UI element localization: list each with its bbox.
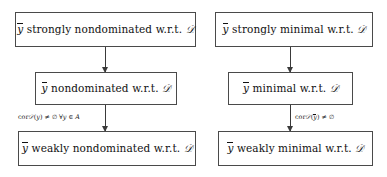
- cal-d-symbol: 𝒟: [186, 23, 194, 35]
- arrow-label-cor-d-ybar-nonempty: cor𝒟(y) ≠ ∅: [295, 114, 334, 120]
- box-strongly-nondominated: y strongly nondominated w.r.t. 𝒟: [15, 12, 196, 47]
- box-strongly-nondominated-label: y strongly nondominated w.r.t. 𝒟: [17, 24, 194, 36]
- arrow-strongly-to-minimal: [290, 47, 291, 72]
- box-strongly-minimal-label: y strongly minimal w.r.t. 𝒟: [223, 24, 366, 36]
- box-strongly-minimal: y strongly minimal w.r.t. 𝒟: [215, 12, 373, 47]
- y-bar-symbol: y: [243, 83, 249, 95]
- box-minimal-label: y minimal w.r.t. 𝒟: [243, 83, 338, 95]
- box-minimal: y minimal w.r.t. 𝒟: [228, 72, 353, 105]
- cal-d-symbol: 𝒟: [162, 82, 170, 94]
- box-weakly-nondominated: y weakly nondominated w.r.t. 𝒟: [18, 131, 196, 166]
- cal-d-symbol: 𝒟: [355, 142, 363, 154]
- arrow-label-cor-d-y-nonempty-forall: cor𝒟(y) ≠ ∅ ∀y ∈ A: [18, 114, 80, 120]
- y-bar-symbol: y: [42, 83, 48, 95]
- box-weakly-nondominated-label: y weakly nondominated w.r.t. 𝒟: [22, 143, 192, 155]
- implication-diagram: y strongly nondominated w.r.t. 𝒟 y nondo…: [0, 0, 387, 177]
- y-bar-symbol: y: [223, 24, 229, 36]
- arrow-nondominated-to-weakly: [105, 105, 106, 131]
- cal-d-symbol: 𝒟: [28, 113, 33, 121]
- box-nondominated: y nondominated w.r.t. 𝒟: [35, 72, 177, 105]
- y-bar-symbol: y: [17, 24, 23, 36]
- arrow-strongly-to-nondominated: [105, 47, 106, 72]
- y-bar-symbol: y: [22, 143, 28, 155]
- arrow-minimal-to-weakly: [290, 105, 291, 131]
- box-nondominated-label: y nondominated w.r.t. 𝒟: [42, 83, 171, 95]
- box-weakly-minimal-label: y weakly minimal w.r.t. 𝒟: [227, 143, 363, 155]
- y-bar-symbol: y: [313, 114, 317, 120]
- cal-d-symbol: 𝒟: [184, 142, 192, 154]
- cal-d-symbol: 𝒟: [330, 82, 338, 94]
- box-weakly-minimal: y weakly minimal w.r.t. 𝒟: [218, 131, 373, 166]
- cal-d-symbol: 𝒟: [305, 113, 310, 121]
- y-bar-symbol: y: [227, 143, 233, 155]
- cal-d-symbol: 𝒟: [357, 23, 365, 35]
